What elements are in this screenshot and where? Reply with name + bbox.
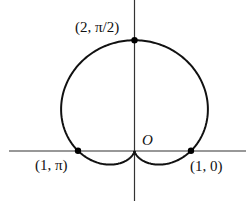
point-marker-1	[75, 148, 81, 154]
label-top-point: (2, π/2)	[75, 19, 119, 36]
origin-label: O	[142, 132, 153, 148]
cardioid-diagram: (2, π/2) (1, π) (1, 0) O	[0, 0, 246, 201]
label-right-point: (1, 0)	[190, 158, 223, 175]
point-marker-0	[131, 37, 137, 43]
point-marker-2	[188, 148, 194, 154]
label-left-point: (1, π)	[35, 157, 68, 174]
